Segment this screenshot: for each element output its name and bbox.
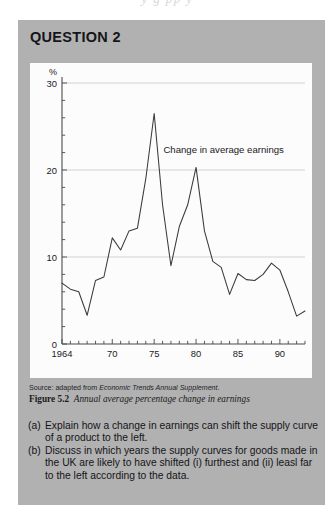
source-suffix: .: [218, 384, 220, 392]
question-item-a: (a) Explain how a change in earnings can…: [28, 420, 320, 445]
x-tick-label-1990: 90: [275, 348, 285, 359]
source-publication-title: Economic Trends Annual Supplement: [99, 384, 217, 392]
figure-metadata: Source: adapted from Economic Trends Ann…: [29, 384, 319, 404]
question-text-b: Discuss in which years the supply curves…: [45, 445, 320, 482]
question-marker-b: (b): [28, 445, 45, 457]
question-list: (a) Explain how a change in earnings can…: [28, 420, 320, 482]
question-marker-a: (a): [28, 420, 45, 432]
question-panel: QUESTION 2 0102030 19647075808590 % Chan…: [18, 20, 325, 505]
source-prefix: Source: adapted from: [29, 384, 99, 392]
y-tick-label-10: 10: [47, 252, 57, 263]
question-item-b: (b) Discuss in which years the supply cu…: [28, 445, 320, 482]
chart-axes: [62, 77, 305, 344]
earnings-line-chart: 0102030 19647075808590 % Change in avera…: [30, 63, 312, 378]
chart-y-axis-labels: 0102030: [47, 78, 57, 350]
chart-series-annotation: Change in average earnings: [163, 144, 284, 155]
x-tick-label-1980: 80: [191, 348, 201, 359]
chart-x-axis-labels: 19647075808590: [52, 348, 286, 359]
x-tick-label-1975: 75: [149, 348, 159, 359]
chart-y-axis-unit: %: [49, 67, 57, 77]
x-tick-label-1970: 70: [107, 348, 117, 359]
figure-number-label: Figure 5.2: [29, 394, 69, 404]
x-tick-label-1985: 85: [233, 348, 243, 359]
figure-caption: Figure 5.2 Annual average percentage cha…: [29, 394, 319, 404]
page-title: QUESTION 2: [30, 29, 121, 45]
y-tick-label-30: 30: [47, 78, 57, 89]
chart-tick-marks: [62, 83, 305, 344]
question-text-a: Explain how a change in earnings can shi…: [45, 420, 320, 445]
figure-chart-box: 0102030 19647075808590 % Change in avera…: [30, 63, 312, 378]
page-bleed-text: y g pp y: [0, 0, 335, 11]
y-axis-unit-label: %: [49, 67, 57, 77]
figure-caption-title: Annual average percentage change in earn…: [74, 394, 250, 404]
x-tick-label-1964: 1964: [52, 348, 73, 359]
y-tick-label-20: 20: [47, 165, 57, 176]
chart-gridlines: [62, 83, 305, 257]
figure-source-line: Source: adapted from Economic Trends Ann…: [29, 384, 319, 392]
